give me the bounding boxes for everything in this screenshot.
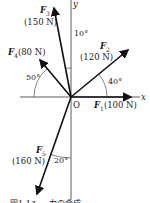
force-f4-label: F4(80 N) [8,48,45,59]
force-f3-name: F3 [40,6,50,17]
angle-label-40: 40° [108,78,122,86]
force-f1-label: F1(100 N) [94,101,137,112]
angle-arc-40 [99,74,107,97]
angle-label-20: 20° [54,157,68,165]
force-f2-magnitude: (120 N) [80,53,113,62]
origin-label: O [73,101,80,110]
y-axis-label: y [73,0,78,9]
angle-label-50: 50° [26,74,40,82]
figure-caption: 図1-13 … 力の合成 [10,197,81,203]
angle-label-10: 10° [74,30,88,38]
x-axis-label: x [141,93,146,102]
force-f3-magnitude: (150 N) [24,18,57,27]
force-f5-magnitude: (160 N) [12,157,45,166]
force-f4-arrow [40,60,71,97]
